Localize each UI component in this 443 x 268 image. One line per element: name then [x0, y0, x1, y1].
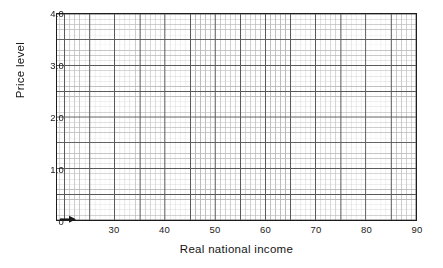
x-tick-label: 90	[412, 224, 423, 235]
x-tick-label: 70	[311, 224, 322, 235]
x-tick-label: 30	[109, 224, 120, 235]
x-tick-label: 40	[159, 224, 170, 235]
x-tick-label: 60	[260, 224, 271, 235]
y-tick-label: 2.0	[30, 112, 64, 123]
y-tick-label: 1.0	[30, 164, 64, 175]
x-tick-label: 80	[361, 224, 372, 235]
chart-figure: 30405060708090 01.02.03.04.0 Real nation…	[0, 0, 443, 268]
x-axis-title: Real national income	[56, 243, 417, 255]
x-tick-label: 50	[210, 224, 221, 235]
y-tick-label: 3.0	[30, 60, 64, 71]
y-axis-title: Price level	[14, 10, 26, 130]
y-tick-label: 0	[30, 216, 64, 227]
plot-area	[56, 13, 417, 221]
grid-canvas	[57, 14, 416, 220]
y-tick-label: 4.0	[30, 8, 64, 19]
